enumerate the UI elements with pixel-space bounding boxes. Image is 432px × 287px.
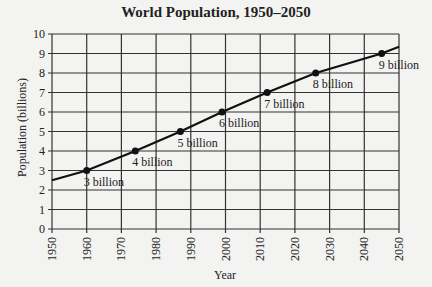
data-point bbox=[312, 70, 319, 77]
x-tick-label: 2000 bbox=[219, 237, 233, 261]
x-tick-label: 2020 bbox=[288, 237, 302, 261]
data-point-label: 3 billion bbox=[84, 175, 124, 189]
x-tick-label: 1970 bbox=[114, 237, 128, 261]
y-tick-label: 8 bbox=[39, 66, 45, 80]
y-tick-label: 0 bbox=[39, 222, 45, 236]
data-point bbox=[264, 89, 271, 96]
data-point-label: 9 billion bbox=[379, 58, 419, 72]
data-point-label: 4 billion bbox=[132, 155, 172, 169]
y-tick-label: 5 bbox=[39, 125, 45, 139]
data-point bbox=[132, 148, 139, 155]
y-tick-label: 10 bbox=[33, 27, 45, 41]
y-tick-label: 7 bbox=[39, 86, 45, 100]
data-point bbox=[177, 128, 184, 135]
y-tick-label: 3 bbox=[39, 164, 45, 178]
data-point-label: 8 billion bbox=[313, 77, 353, 91]
x-tick-label: 1990 bbox=[184, 237, 198, 261]
x-tick-label: 1980 bbox=[149, 237, 163, 261]
x-tick-label: 1950 bbox=[45, 237, 59, 261]
line-chart: 1950196019701980199020002010202020302040… bbox=[0, 0, 432, 287]
data-point bbox=[83, 167, 90, 174]
x-tick-label: 1960 bbox=[80, 237, 94, 261]
y-tick-label: 6 bbox=[39, 105, 45, 119]
data-point-label: 5 billion bbox=[177, 136, 217, 150]
data-point-label: 7 billion bbox=[264, 97, 304, 111]
data-point bbox=[219, 109, 226, 116]
data-point-label: 6 billion bbox=[219, 116, 259, 130]
y-tick-label: 4 bbox=[39, 144, 45, 158]
x-tick-label: 2040 bbox=[357, 237, 371, 261]
x-tick-label: 2050 bbox=[392, 237, 406, 261]
x-tick-label: 2010 bbox=[253, 237, 267, 261]
y-tick-label: 1 bbox=[39, 203, 45, 217]
y-tick-label: 9 bbox=[39, 47, 45, 61]
x-tick-label: 2030 bbox=[323, 237, 337, 261]
data-point bbox=[378, 50, 385, 57]
y-tick-label: 2 bbox=[39, 183, 45, 197]
